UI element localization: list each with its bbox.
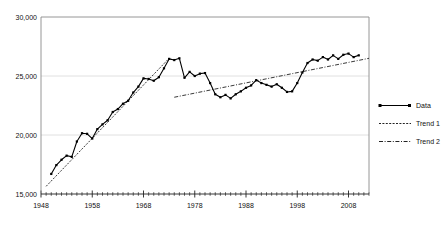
series-trend-1 bbox=[46, 58, 169, 186]
legend-key-trend-2 bbox=[378, 137, 412, 146]
y-tick-label: 15,000 bbox=[16, 191, 38, 198]
x-tick-label: 1998 bbox=[289, 202, 305, 209]
x-tick-label: 2008 bbox=[341, 202, 357, 209]
series-data bbox=[51, 54, 359, 174]
y-tick-label: 20,000 bbox=[16, 132, 38, 139]
legend-key-data bbox=[378, 101, 412, 110]
series-trend-2 bbox=[174, 58, 369, 97]
y-axis-labels: 30,00025,00020,00015,000 bbox=[16, 14, 38, 198]
x-tick-label: 1958 bbox=[84, 202, 100, 209]
legend-label-trend-1: Trend 1 bbox=[416, 119, 440, 128]
legend-key-trend-1 bbox=[378, 119, 412, 128]
legend-item-trend-2[interactable]: Trend 2 bbox=[378, 137, 440, 146]
gridlines bbox=[41, 76, 369, 135]
legend-item-data[interactable]: Data bbox=[378, 101, 440, 110]
chart-figure: 30,00025,00020,00015,000 194819581968197… bbox=[0, 0, 443, 228]
x-tick-label: 1968 bbox=[136, 202, 152, 209]
plot-frame bbox=[41, 17, 369, 194]
legend-label-trend-2: Trend 2 bbox=[416, 137, 440, 146]
legend-item-trend-1[interactable]: Trend 1 bbox=[378, 119, 440, 128]
y-tick-label: 25,000 bbox=[16, 73, 38, 80]
x-axis-labels: 1948195819681978198819982008 bbox=[33, 202, 356, 209]
x-tick-label: 1978 bbox=[187, 202, 203, 209]
plot-area: 30,00025,00020,00015,000 194819581968197… bbox=[0, 0, 375, 228]
chart-svg: 30,00025,00020,00015,000 194819581968197… bbox=[0, 0, 375, 228]
series-data-markers bbox=[50, 52, 360, 175]
x-tick-label: 1988 bbox=[238, 202, 254, 209]
x-tick-label: 1948 bbox=[33, 202, 49, 209]
legend: Data Trend 1 Trend 2 bbox=[378, 101, 440, 146]
legend-label-data: Data bbox=[416, 101, 431, 110]
y-tick-label: 30,000 bbox=[16, 14, 38, 21]
